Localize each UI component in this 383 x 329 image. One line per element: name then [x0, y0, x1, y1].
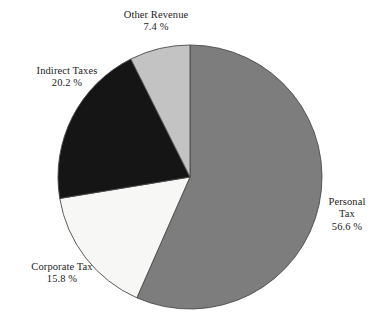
- slice-label-indirect-taxes-name: Indirect Taxes: [8, 65, 126, 77]
- slice-label-personal-tax: Personal Tax 56.6 %: [312, 196, 382, 233]
- slice-label-indirect-taxes-value: 20.2 %: [8, 77, 126, 89]
- slice-label-corporate-tax: Corporate Tax 15.8 %: [2, 261, 122, 286]
- pie-chart: Other Revenue 7.4 % Indirect Taxes 20.2 …: [0, 0, 383, 329]
- slice-label-other-revenue-name: Other Revenue: [96, 9, 216, 21]
- slice-label-corporate-tax-name: Corporate Tax: [2, 261, 122, 273]
- slice-label-personal-tax-name-line2: Tax: [312, 208, 382, 220]
- slice-label-indirect-taxes: Indirect Taxes 20.2 %: [8, 65, 126, 90]
- slice-label-other-revenue-value: 7.4 %: [96, 21, 216, 33]
- slice-label-personal-tax-name-line1: Personal: [312, 196, 382, 208]
- slice-label-personal-tax-value: 56.6 %: [312, 221, 382, 233]
- slice-label-other-revenue: Other Revenue 7.4 %: [96, 9, 216, 34]
- slice-label-corporate-tax-value: 15.8 %: [2, 273, 122, 285]
